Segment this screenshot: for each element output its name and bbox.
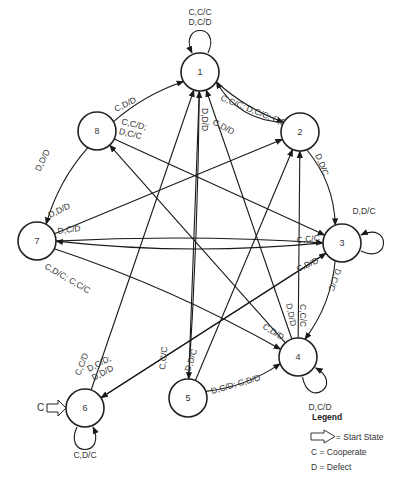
transition-1-1 xyxy=(189,31,211,54)
state-1: 1 xyxy=(181,53,219,91)
transition-label: D,D/D xyxy=(200,108,210,131)
state-5: 5 xyxy=(169,379,207,417)
transition-5-2 xyxy=(195,150,292,381)
transition-label: C,D/C xyxy=(73,450,96,460)
start-state-indicator: C xyxy=(37,400,66,416)
transition-label: C,D/D xyxy=(112,95,137,114)
transition-label: C,C/C xyxy=(157,346,169,370)
start-arrow-icon xyxy=(47,400,66,416)
state-label: 2 xyxy=(297,127,302,137)
transition-label: D,D/D xyxy=(33,148,52,173)
transition-7-2 xyxy=(55,139,283,233)
state-label: 8 xyxy=(94,126,99,136)
legend-start-arrow-icon xyxy=(311,430,335,443)
start-state-label: C xyxy=(37,402,44,413)
state-label: 5 xyxy=(185,393,190,403)
legend-item-cooperate: C = Cooperate xyxy=(311,447,367,457)
transition-label: D,D/D xyxy=(46,201,71,220)
legend-title: Legend xyxy=(312,412,342,422)
transition-label: D,D/C xyxy=(313,152,331,177)
legend-item-defect: D = Defect xyxy=(311,462,352,472)
transition-label: D,D/C xyxy=(182,348,199,373)
transition-3-7 xyxy=(56,241,323,249)
state-3: 3 xyxy=(323,224,361,262)
transition-label: C,D/C; C,C/C xyxy=(43,261,92,295)
transition-label: D,C/D xyxy=(57,223,81,236)
transition-3-3 xyxy=(361,232,384,254)
transition-label: C,C/C xyxy=(188,7,211,17)
transition-label: C,D/D xyxy=(211,117,236,137)
legend-item-start-state: = Start State xyxy=(336,432,384,442)
legend: Legend = Start State C = Cooperate D = D… xyxy=(311,412,384,472)
transition-8-3 xyxy=(114,139,324,235)
state-diagram: C,C/CD,C/DC,D/DC,C/C; D,C/C; C,D/DD,D/DD… xyxy=(0,0,407,487)
state-label: 4 xyxy=(295,352,300,362)
state-label: 7 xyxy=(34,236,39,246)
transition-6-6 xyxy=(74,427,96,450)
state-label: 6 xyxy=(82,403,87,413)
transition-label: D,C/C xyxy=(326,267,343,292)
state-4: 4 xyxy=(279,338,317,376)
state-6: 6 xyxy=(66,389,104,427)
transition-label: C,C/C xyxy=(298,304,308,327)
state-label: 1 xyxy=(197,67,202,77)
transition-7-3 xyxy=(56,238,323,243)
transition-label: C,D/D xyxy=(261,321,286,342)
transition-label: D,C/D; C,D/D xyxy=(210,372,262,396)
state-7: 7 xyxy=(18,222,56,260)
transition-label: D,C/D xyxy=(308,402,331,412)
transition-label: D,C/D xyxy=(188,17,211,27)
state-label: 3 xyxy=(339,238,344,248)
state-2: 2 xyxy=(281,113,319,151)
transition-3-4 xyxy=(305,261,335,340)
transition-label: D,D/C xyxy=(352,206,375,216)
state-8: 8 xyxy=(78,112,116,150)
